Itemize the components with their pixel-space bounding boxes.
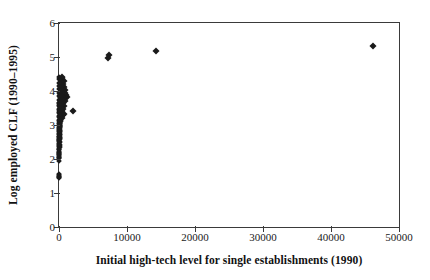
y-axis-tick-label: 6	[50, 18, 56, 29]
x-axis-tick-label: 0	[56, 232, 62, 243]
y-axis-tick-label: 5	[50, 52, 56, 63]
x-axis-tick-label: 30000	[249, 232, 277, 243]
scatter-chart-figure: Log employed CLF (1990–1995) 01234560100…	[0, 0, 430, 280]
x-axis-tick-label: 20000	[181, 232, 209, 243]
y-axis-tick-label: 1	[50, 188, 56, 199]
x-axis-title: Initial high-tech level for single estab…	[58, 254, 400, 266]
plot-frame: 012345601000020000300004000050000	[58, 22, 400, 228]
x-axis-tick-label: 10000	[113, 232, 141, 243]
x-axis-tick-label: 40000	[317, 232, 345, 243]
y-axis-title: Log employed CLF (1990–1995)	[4, 22, 22, 228]
data-point	[152, 47, 159, 54]
y-axis-title-text: Log employed CLF (1990–1995)	[7, 45, 19, 205]
y-axis-tick-label: 4	[50, 86, 56, 97]
y-axis-tick-label: 3	[50, 120, 56, 131]
plot-area	[59, 23, 399, 227]
data-point	[69, 108, 76, 115]
y-axis-tick-label: 2	[50, 154, 56, 165]
y-axis-tick-label: 0	[50, 222, 56, 233]
data-point	[370, 42, 377, 49]
x-axis-tick-label: 50000	[385, 232, 413, 243]
